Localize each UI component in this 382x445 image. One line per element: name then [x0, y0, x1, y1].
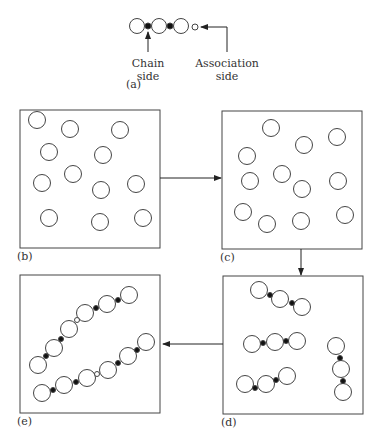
chain-label-1: Chain [132, 57, 165, 70]
panel-b [20, 110, 160, 248]
association-site [192, 24, 198, 30]
panel-b-label: (b) [17, 250, 33, 263]
panel-a [130, 19, 228, 53]
panel-c [222, 111, 362, 249]
chain-dot [145, 23, 151, 29]
panel-c-label: (c) [220, 251, 235, 264]
panel-d-label: (d) [221, 416, 237, 429]
panel-e [20, 275, 160, 413]
panel-d [223, 276, 363, 414]
panel-a-label: (a) [126, 78, 141, 91]
association-diagram: Chain side Association side (a) (b) [0, 0, 382, 445]
association-label-1: Association [194, 57, 259, 70]
association-label-2: side [216, 70, 239, 83]
association-side-arrow [201, 27, 227, 52]
panel-e-label: (e) [17, 415, 32, 428]
chain-dot [167, 23, 173, 29]
